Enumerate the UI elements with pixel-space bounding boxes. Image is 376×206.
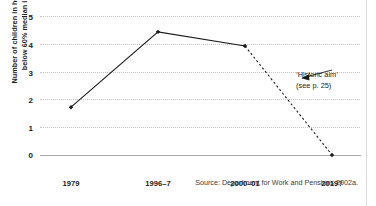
data-point-marker [330,153,334,157]
page-border-rule [366,0,367,206]
x-tick-label-1996-7: 1996–7 [145,179,170,188]
chart-figure: Number of children in households below 6… [0,0,376,206]
y-tick-label-1: 1 [29,124,33,133]
historic-aim-line-1: ‘Historic aim’ [296,70,338,81]
historic-aim-line-2: (see p. 25) [296,81,338,92]
y-tick-label-4: 4 [29,40,33,49]
x-tick-label-1979: 1979 [63,179,80,188]
source-note: Source: Department for Work and Pensions… [195,178,358,187]
series-solid-segment [71,32,245,107]
y-tick-label-2: 2 [29,96,33,105]
historic-aim-annotation: ‘Historic aim’ (see p. 25) [296,70,338,91]
series-dashed-projection-segment [245,46,332,155]
y-axis-title: Number of children in households below 6… [10,0,29,98]
y-tick-label-3: 3 [29,68,33,77]
y-tick-label-0: 0 [29,151,33,160]
series-data-point-markers [69,30,334,158]
y-tick-label-5: 5 [29,13,33,22]
x-axis-baseline: 0 [40,155,361,156]
